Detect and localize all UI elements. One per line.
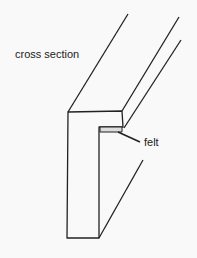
edge-line-notch (124, 40, 181, 128)
cross-section-drawing (0, 0, 197, 258)
felt-leader-line (118, 132, 140, 142)
edge-line-left (68, 14, 128, 112)
edge-line-bottom (99, 160, 143, 238)
felt-label: felt (144, 136, 159, 148)
cross-section-label: cross section (15, 48, 79, 60)
edge-line-top-right (122, 17, 179, 111)
felt-strip (100, 127, 122, 132)
